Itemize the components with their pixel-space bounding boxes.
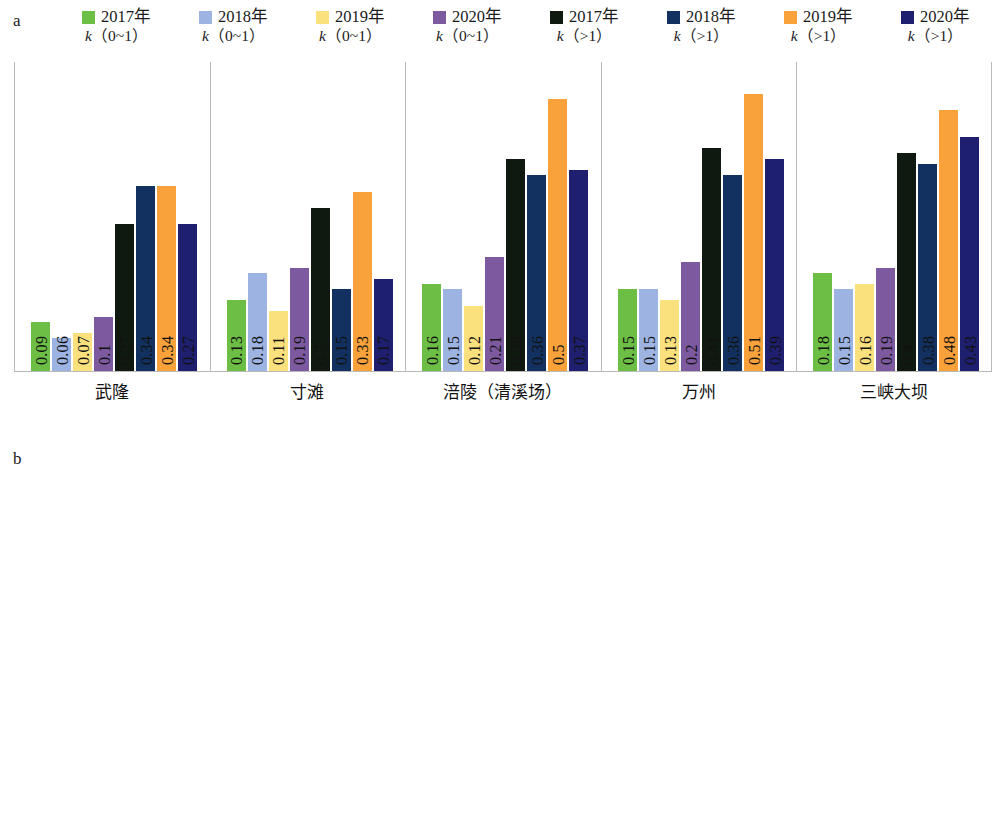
bar-item[interactable]: 0.19 [290,62,309,371]
bar-value-label: 0.15 [620,336,638,365]
legend-label: 2017年 [101,8,151,26]
legend-sublabel: k（>1） [908,27,963,44]
bar-item[interactable]: 0.36 [723,62,742,371]
bar-item[interactable]: 0.16 [422,62,441,371]
bar-item[interactable]: 0.13 [660,62,679,371]
bar-item[interactable]: 0.36 [527,62,546,371]
bar-value-label: 0.51 [746,336,764,365]
bar-item[interactable]: 0.19 [876,62,895,371]
bar-value-label: 0.09 [33,336,51,365]
legend-item[interactable]: 2018年k（>1） [643,8,760,45]
legend-label: 2019年 [335,8,385,26]
bar-item[interactable]: 0.27 [178,62,197,371]
bar-item[interactable]: 0.4 [897,62,916,371]
bar-value-label: 0.21 [487,336,505,365]
bar-value-label: 0.39 [767,336,785,365]
subplot-5: 0.180.150.160.190.40.380.480.43 [796,62,992,372]
subplot-3: 0.160.150.120.210.390.360.50.37 [405,62,601,372]
bar-item[interactable]: 0.33 [353,62,372,371]
bar-value-label: 0.33 [354,336,372,365]
bar-value-label: 0.2 [683,344,701,365]
bar-item[interactable]: 0.11 [269,62,288,371]
legend-swatch-icon [82,11,95,24]
bar-value-label: 0.19 [878,336,896,365]
bar-item[interactable]: 0.34 [136,62,155,371]
bar-item[interactable]: 0.48 [939,62,958,371]
legend-label: 2018年 [218,8,268,26]
bar-item[interactable]: 0.15 [834,62,853,371]
bar-item[interactable]: 0.15 [618,62,637,371]
bar-item[interactable]: 0.5 [548,62,567,371]
bar-value-label: 0.37 [571,336,589,365]
category-label: 寸滩 [210,378,406,403]
bar-item[interactable]: 0.16 [855,62,874,371]
bar-item[interactable]: 0.39 [506,62,525,371]
bar-item[interactable]: 0.18 [248,62,267,371]
bar-item[interactable]: 0.15 [443,62,462,371]
bar[interactable] [548,99,567,371]
bar-group: 0.130.180.110.190.30.150.330.17 [211,62,406,371]
legend-item[interactable]: 2019年k（>1） [760,8,877,45]
bar-item[interactable]: 0.51 [744,62,763,371]
bar-item[interactable]: 0.39 [765,62,784,371]
bar-value-label: 0.19 [291,336,309,365]
bar-item[interactable]: 0.09 [31,62,50,371]
bar-value-label: 0.27 [117,336,135,365]
bar-item[interactable]: 0.21 [485,62,504,371]
bar[interactable] [897,153,916,371]
legend-item[interactable]: 2020年k（>1） [877,8,994,45]
bar[interactable] [744,94,763,371]
bar-item[interactable]: 0.37 [569,62,588,371]
legend-sublabel: k（0~1） [85,27,148,44]
bar-item[interactable]: 0.41 [702,62,721,371]
legend-label: 2020年 [920,8,970,26]
legend-sublabel: k（0~1） [319,27,382,44]
bar-item[interactable]: 0.17 [374,62,393,371]
figure-bar-charts: a 2017年k（0~1）2018年k（0~1）2019年k（0~1）2020年… [0,0,1000,840]
bar-item[interactable]: 0.38 [918,62,937,371]
legend-item[interactable]: 2018年k（0~1） [175,8,292,45]
bar-value-label: 0.06 [54,336,72,365]
legend-entry: 2017年 [82,8,151,26]
legend-item[interactable]: 2017年k（>1） [526,8,643,45]
bar-value-label: 0.48 [941,336,959,365]
subplot-2: 0.130.180.110.190.30.150.330.17 [210,62,406,372]
bar-item[interactable]: 0.18 [813,62,832,371]
legend-item[interactable]: 2019年k（0~1） [292,8,409,45]
bar-item[interactable]: 0.34 [157,62,176,371]
bar-value-label: 0.36 [725,336,743,365]
bar-value-label: 0.4 [899,344,917,365]
legend-entry: 2019年 [316,8,385,26]
bar-value-label: 0.15 [836,336,854,365]
bar-item[interactable]: 0.13 [227,62,246,371]
legend-swatch-icon [433,11,446,24]
bar-item[interactable]: 0.15 [332,62,351,371]
plot-area-panel-a: 0.090.060.070.10.270.340.340.270.130.180… [14,62,992,372]
bar-item[interactable]: 0.3 [311,62,330,371]
bar-item[interactable]: 0.12 [464,62,483,371]
bar-value-label: 0.18 [249,336,267,365]
bar-value-label: 0.16 [424,336,442,365]
legend-item[interactable]: 2020年k（0~1） [409,8,526,45]
bar-value-label: 0.34 [159,336,177,365]
bar-value-label: 0.15 [445,336,463,365]
bar[interactable] [939,110,958,371]
legend-sublabel: k（>1） [791,27,846,44]
bar-item[interactable]: 0.43 [960,62,979,371]
legend-item[interactable]: 2017年k（0~1） [58,8,175,45]
bar-item[interactable]: 0.07 [73,62,92,371]
panel-a-letter: a [13,12,21,29]
bar-value-label: 0.38 [920,336,938,365]
category-label: 武隆 [14,378,210,403]
bar-value-label: 0.13 [662,336,680,365]
bar-item[interactable]: 0.27 [115,62,134,371]
bar-value-label: 0.1 [96,344,114,365]
legend-entry: 2017年 [550,8,619,26]
category-label: 涪陵（清溪场） [405,378,601,403]
bar-item[interactable]: 0.1 [94,62,113,371]
legend-swatch-icon [199,11,212,24]
legend-entry: 2019年 [784,8,853,26]
bar-item[interactable]: 0.2 [681,62,700,371]
bar-item[interactable]: 0.15 [639,62,658,371]
bar-item[interactable]: 0.06 [52,62,71,371]
